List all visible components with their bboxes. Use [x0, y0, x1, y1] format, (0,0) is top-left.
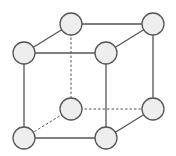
cube-edges	[24, 24, 153, 138]
node-front-top-right	[95, 42, 117, 64]
node-back-bottom-left	[60, 98, 82, 120]
lattice-nodes	[13, 13, 164, 149]
node-front-bottom-right	[95, 127, 117, 149]
node-front-bottom-left	[13, 127, 35, 149]
cube-lattice-diagram	[0, 0, 176, 156]
node-front-top-left	[13, 42, 35, 64]
node-back-bottom-right	[142, 98, 164, 120]
node-back-top-left	[60, 13, 82, 35]
node-back-top-right	[142, 13, 164, 35]
